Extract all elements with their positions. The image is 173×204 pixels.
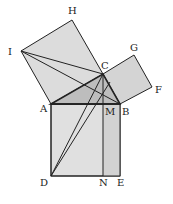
pythagoras-diagram: H I C G F A M B D N E [0,0,173,204]
label-A: A [39,103,48,114]
label-C: C [101,60,109,71]
label-D: D [40,177,48,188]
label-E: E [117,177,124,188]
label-N: N [99,177,108,188]
label-G: G [130,42,138,53]
label-B: B [122,106,129,117]
label-M: M [105,106,115,117]
label-H: H [68,5,77,16]
label-F: F [155,84,162,95]
label-I: I [8,46,12,57]
